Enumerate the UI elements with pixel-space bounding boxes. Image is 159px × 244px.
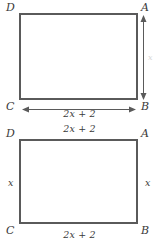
dimension-label-right-bottom-figure: x [145, 178, 151, 188]
geometry-diagram-page: D A C B 2x + 2 x D A C B 2x [0, 0, 159, 244]
figure-bottom-rectangle: D A C B 2x + 2 2x + 2 x x [0, 122, 159, 244]
dimension-label-left-bottom-figure: x [8, 178, 14, 188]
figure-top-rectangle: D A C B 2x + 2 x [0, 0, 159, 122]
dimension-arrow-vertical-top [139, 15, 148, 100]
vertex-label-d-top: D [6, 2, 15, 13]
rectangle-shape-bottom [19, 139, 138, 224]
dimension-label-bottom-bottom-figure: 2x + 2 [0, 230, 159, 240]
dimension-label-right-top-figure: x [148, 54, 153, 62]
dimension-label-bottom-top-figure: 2x + 2 [0, 109, 159, 119]
dimension-label-top-bottom-figure: 2x + 2 [0, 124, 159, 134]
vertex-label-a-top: A [141, 2, 149, 13]
rectangle-shape-top [19, 13, 138, 100]
